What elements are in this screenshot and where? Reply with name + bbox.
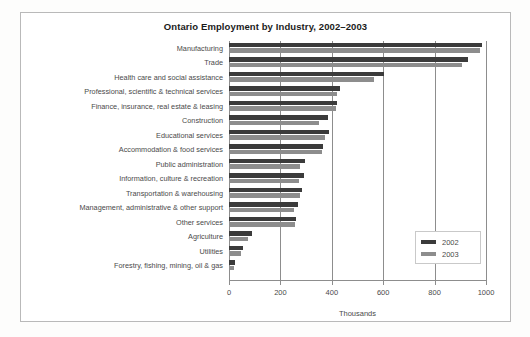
bar-2003: [229, 121, 319, 126]
bar-2002: [229, 217, 296, 222]
bar-2002: [229, 260, 235, 265]
gridline-1000: [486, 41, 487, 281]
bar-2003: [229, 266, 234, 271]
legend-swatch-2002: [421, 240, 436, 245]
chart-title: Ontario Employment by Industry, 2002–200…: [21, 21, 510, 32]
x-axis-label: Thousands: [229, 309, 486, 318]
category-label: Accommodation & food services: [119, 145, 223, 154]
category-label: Forestry, fishing, mining, oil & gas: [114, 261, 223, 270]
category-label: Trade: [204, 58, 223, 67]
bar-2002: [229, 202, 298, 207]
tick-label-600: 600: [377, 288, 390, 297]
bar-2002: [229, 144, 323, 149]
category-label: Professional, scientific & technical ser…: [84, 87, 223, 96]
bar-2003: [229, 106, 336, 111]
chart-frame: Ontario Employment by Industry, 2002–200…: [20, 12, 511, 322]
bar-2002: [229, 72, 384, 77]
bar-2002: [229, 115, 328, 120]
bar-2003: [229, 237, 248, 242]
category-label: Agriculture: [188, 232, 223, 241]
bar-2003: [229, 179, 299, 184]
legend-label-2002: 2002: [442, 238, 459, 247]
bar-2002: [229, 173, 304, 178]
tick-label-800: 800: [428, 288, 441, 297]
bar-2003: [229, 222, 295, 227]
chart-legend: 2002 2003: [415, 231, 481, 264]
tick-0: [229, 281, 230, 285]
bar-2003: [229, 251, 241, 256]
bar-2002: [229, 188, 302, 193]
bar-2003: [229, 92, 337, 97]
bar-2003: [229, 150, 322, 155]
tick-label-400: 400: [326, 288, 339, 297]
legend-item-2002: 2002: [421, 236, 475, 248]
category-label: Utilities: [199, 247, 223, 256]
bar-2003: [229, 135, 325, 140]
bar-2002: [229, 101, 337, 106]
bar-row: Professional, scientific & technical ser…: [229, 86, 486, 101]
bar-2003: [229, 208, 294, 213]
bar-row: Manufacturing: [229, 42, 486, 57]
bar-2003: [229, 193, 300, 198]
bar-2002: [229, 86, 340, 91]
legend-label-2003: 2003: [442, 250, 459, 259]
tick-400: [332, 281, 333, 285]
tick-600: [383, 281, 384, 285]
tick-label-200: 200: [274, 288, 287, 297]
bar-row: Public administration: [229, 158, 486, 173]
bar-2002: [229, 57, 468, 62]
category-label: Educational services: [156, 131, 223, 140]
legend-swatch-2003: [421, 252, 436, 257]
tick-label-1000: 1000: [478, 288, 495, 297]
category-label: Information, culture & recreation: [119, 174, 223, 183]
bar-2002: [229, 231, 252, 236]
bar-2002: [229, 246, 243, 251]
category-label: Other services: [176, 218, 223, 227]
bar-2002: [229, 130, 329, 135]
bar-row: Other services: [229, 216, 486, 231]
bar-2003: [229, 63, 462, 68]
bar-row: Accommodation & food services: [229, 144, 486, 159]
bar-row: Management, administrative & other suppo…: [229, 202, 486, 217]
bar-2002: [229, 43, 482, 48]
x-axis-line: [229, 280, 486, 281]
tick-label-0: 0: [227, 288, 231, 297]
category-label: Manufacturing: [177, 44, 223, 53]
tick-1000: [486, 281, 487, 285]
tick-800: [435, 281, 436, 285]
category-label: Health care and social assistance: [114, 73, 223, 82]
category-label: Finance, insurance, real estate & leasin…: [91, 102, 223, 111]
tick-200: [280, 281, 281, 285]
bar-row: Trade: [229, 57, 486, 72]
chart-page: Ontario Employment by Industry, 2002–200…: [0, 0, 530, 337]
legend-item-2003: 2003: [421, 248, 475, 260]
bar-row: Information, culture & recreation: [229, 173, 486, 188]
bar-2003: [229, 77, 374, 82]
bar-row: Finance, insurance, real estate & leasin…: [229, 100, 486, 115]
bar-row: Construction: [229, 115, 486, 130]
bar-row: Educational services: [229, 129, 486, 144]
bar-2003: [229, 164, 300, 169]
category-label: Management, administrative & other suppo…: [79, 203, 223, 212]
bar-row: Health care and social assistance: [229, 71, 486, 86]
bar-2002: [229, 159, 305, 164]
category-label: Transportation & warehousing: [126, 189, 223, 198]
category-label: Construction: [182, 116, 223, 125]
category-label: Public administration: [156, 160, 223, 169]
bar-row: Transportation & warehousing: [229, 187, 486, 202]
bar-2003: [229, 48, 480, 53]
